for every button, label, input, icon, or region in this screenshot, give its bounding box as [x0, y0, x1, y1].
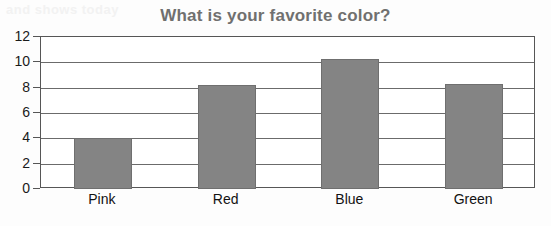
y-tick-mark [33, 137, 40, 138]
y-tick-mark [33, 188, 40, 189]
bar-red [198, 85, 256, 189]
bar-pink [74, 138, 132, 189]
chart-title: What is your favorite color? [0, 6, 551, 26]
y-tick-label: 0 [22, 180, 30, 196]
y-tick-label: 12 [14, 28, 30, 44]
bar-green [445, 84, 503, 189]
y-tick-label: 6 [22, 104, 30, 120]
y-tick-mark [33, 112, 40, 113]
y-tick-mark [33, 163, 40, 164]
x-tick-label-green: Green [454, 191, 493, 207]
y-tick-mark [33, 87, 40, 88]
y-tick-label: 2 [22, 155, 30, 171]
y-tick-mark [33, 36, 40, 37]
y-tick-label: 8 [22, 79, 30, 95]
x-tick-label-blue: Blue [335, 191, 363, 207]
y-tick-label: 4 [22, 129, 30, 145]
plot-area [40, 36, 535, 188]
y-axis: 024681012 [0, 36, 36, 188]
x-tick-label-red: Red [213, 191, 239, 207]
gridline [41, 62, 534, 63]
y-tick-label: 10 [14, 53, 30, 69]
bar-blue [321, 59, 379, 189]
chart-page: and shows today answered that they wante… [0, 0, 551, 226]
x-tick-label-pink: Pink [88, 191, 115, 207]
y-tick-mark [33, 61, 40, 62]
